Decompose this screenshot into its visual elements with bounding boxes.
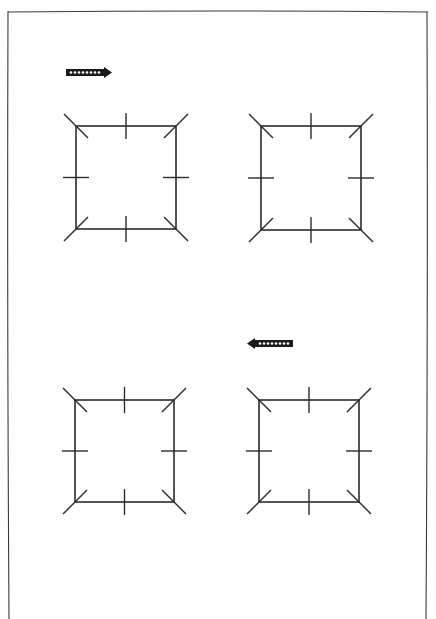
frame-left-edge	[8, 11, 9, 619]
page-frame	[8, 11, 428, 619]
square-top-left	[63, 113, 189, 242]
square-bottom-right	[246, 387, 372, 515]
arrow-right-icon	[66, 67, 112, 78]
square-bottom-left	[62, 387, 187, 515]
square-outline	[76, 126, 176, 229]
square-outline	[75, 400, 174, 502]
square-top-right	[248, 113, 374, 243]
square-outline	[261, 126, 361, 230]
squares-layer	[62, 113, 374, 515]
diagram-canvas	[0, 0, 436, 619]
arrow-left-icon	[247, 338, 293, 349]
arrows-layer	[66, 67, 293, 349]
frame-right-edge	[426, 11, 427, 619]
square-outline	[259, 400, 359, 502]
frame-top-edge	[8, 11, 427, 12]
